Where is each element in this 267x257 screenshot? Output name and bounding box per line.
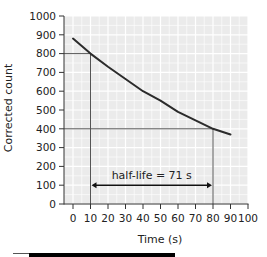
bottom-scroll-bar <box>13 253 175 257</box>
x-tick-label: 10 <box>84 212 97 224</box>
x-tick-label: 90 <box>224 212 237 224</box>
x-tick-label: 80 <box>206 212 219 224</box>
x-tick-label: 70 <box>189 212 202 224</box>
y-axis-ticks: 01002003004005006007008009001000 <box>29 10 64 210</box>
bottom-bar-thick-segment <box>29 253 175 257</box>
y-tick-label: 600 <box>36 85 56 97</box>
half-life-label: half-life = 71 s <box>112 169 192 182</box>
half-life-chart: half-life = 71 s 01002003004005006007008… <box>0 0 267 257</box>
y-tick-label: 300 <box>36 141 56 153</box>
y-axis-title: Corrected count <box>2 63 15 152</box>
x-tick-label: 20 <box>101 212 114 224</box>
bottom-bar-thin-segment <box>13 253 29 254</box>
x-tick-label: 60 <box>171 212 184 224</box>
y-tick-label: 900 <box>36 29 56 41</box>
y-tick-label: 400 <box>36 123 56 135</box>
y-tick-label: 100 <box>36 179 56 191</box>
x-axis-ticks: 0102030405060708090100 <box>70 204 258 224</box>
x-tick-label: 100 <box>238 212 258 224</box>
y-tick-label: 200 <box>36 160 56 172</box>
x-tick-label: 0 <box>70 212 77 224</box>
y-tick-label: 500 <box>36 104 56 116</box>
y-tick-label: 0 <box>49 198 56 210</box>
x-tick-label: 40 <box>136 212 149 224</box>
x-axis-title: Time (s) <box>137 233 183 246</box>
y-tick-label: 800 <box>36 47 56 59</box>
y-tick-label: 700 <box>36 66 56 78</box>
y-tick-label: 1000 <box>29 10 56 22</box>
x-tick-label: 50 <box>154 212 167 224</box>
x-tick-label: 30 <box>119 212 132 224</box>
